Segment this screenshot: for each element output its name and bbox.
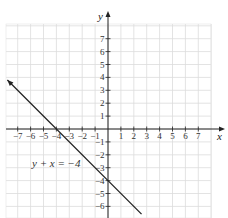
y-tick-label: −6 — [95, 201, 105, 211]
y-tick-label: −5 — [95, 189, 105, 199]
x-tick-label: 1 — [119, 131, 124, 141]
x-tick-label: 4 — [157, 131, 162, 141]
x-tick-label: −2 — [77, 131, 87, 141]
y-axis-label: y — [97, 10, 103, 22]
axes — [6, 11, 225, 218]
y-tick-label: 6 — [100, 47, 105, 57]
x-axis-label: x — [216, 130, 222, 142]
y-tick-label: 5 — [100, 60, 105, 70]
y-tick-label: −3 — [95, 163, 105, 173]
equation-line — [7, 80, 141, 214]
y-tick-label: −1 — [95, 137, 105, 147]
y-tick-label: 1 — [100, 111, 105, 121]
x-tick-label: 5 — [170, 131, 175, 141]
x-tick-label: 2 — [132, 131, 137, 141]
y-tick-label: 2 — [100, 98, 105, 108]
grid — [6, 24, 211, 218]
coordinate-plane: −7−6−5−4−3−2−112345677654321−1−2−3−4−5−6… — [0, 0, 228, 218]
x-tick-label: 7 — [196, 131, 201, 141]
y-tick-label: −4 — [95, 176, 105, 186]
x-tick-label: 6 — [183, 131, 188, 141]
x-tick-label: −7 — [13, 131, 23, 141]
line-series — [7, 80, 141, 214]
y-tick-label: 7 — [100, 34, 105, 44]
y-tick-label: −2 — [95, 150, 105, 160]
x-tick-label: 3 — [144, 131, 149, 141]
x-tick-label: −6 — [26, 131, 36, 141]
equation-text: y + x = −4 — [31, 157, 81, 169]
x-tick-label: −5 — [39, 131, 49, 141]
y-tick-label: 3 — [100, 85, 105, 95]
equation-label: y + x = −4 — [31, 157, 81, 169]
y-tick-label: 4 — [100, 72, 105, 82]
